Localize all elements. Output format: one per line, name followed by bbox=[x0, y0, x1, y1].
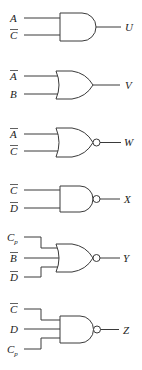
label-v-input-a-bar: A bbox=[9, 70, 17, 82]
label-y-input-b-bar: B bbox=[10, 252, 17, 264]
gate-x-nand: C D X bbox=[9, 184, 132, 214]
and-gate-icon bbox=[60, 13, 96, 41]
label-x-output: X bbox=[123, 193, 132, 205]
label-y-input-d-bar: D bbox=[9, 271, 18, 283]
nor-gate-icon bbox=[56, 128, 93, 157]
label-y-output: Y bbox=[123, 252, 131, 264]
logic-gate-diagram: A C U A B V A C W C D X bbox=[0, 0, 142, 370]
inverter-bubble-icon bbox=[93, 139, 100, 146]
label-x-input-d-bar: D bbox=[9, 202, 18, 214]
label-v-input-b: B bbox=[10, 88, 17, 100]
gate-v-or: A B V bbox=[9, 70, 133, 100]
inverter-bubble-icon bbox=[93, 196, 100, 203]
label-z-input-cp: Cp bbox=[7, 343, 18, 358]
label-u-input-a: A bbox=[9, 12, 17, 24]
label-u-input-c-bar: C bbox=[10, 29, 18, 41]
inverter-bubble-icon bbox=[94, 326, 101, 333]
wire-z-in3 bbox=[24, 338, 60, 349]
wire-y-in1 bbox=[24, 237, 59, 248]
label-z-input-d: D bbox=[9, 323, 18, 335]
label-u-output: U bbox=[125, 21, 134, 33]
gate-z-nand3: C D Cp Z bbox=[7, 303, 130, 358]
label-y-input-cp: Cp bbox=[7, 231, 18, 246]
label-v-output: V bbox=[125, 79, 133, 91]
nand-gate-icon bbox=[60, 316, 94, 343]
gate-w-nor: A C W bbox=[9, 128, 134, 157]
nor-gate-icon bbox=[56, 244, 93, 272]
gate-u-and: A C U bbox=[9, 12, 134, 41]
label-z-output: Z bbox=[123, 324, 130, 336]
label-w-output: W bbox=[124, 136, 134, 148]
label-w-input-a-bar: A bbox=[9, 128, 17, 140]
inverter-bubble-icon bbox=[93, 255, 100, 262]
label-z-input-c-bar: C bbox=[10, 303, 18, 315]
wire-y-in3 bbox=[24, 267, 59, 277]
wire-z-in1 bbox=[24, 309, 60, 320]
or-gate-icon bbox=[56, 71, 93, 99]
gate-y-nor3: Cp B D Y bbox=[7, 231, 131, 283]
label-x-input-c-bar: C bbox=[10, 184, 18, 196]
nand-gate-icon bbox=[60, 186, 93, 212]
label-w-input-c-bar: C bbox=[10, 145, 18, 157]
